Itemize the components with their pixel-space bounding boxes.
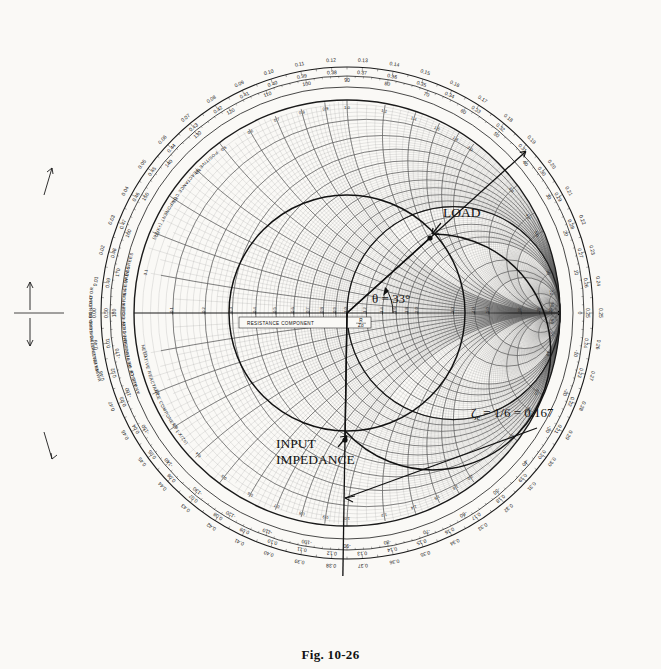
load-annotation: LOAD xyxy=(443,205,481,220)
wavelength-load-label: 0.26 xyxy=(583,277,590,288)
angle-scale-label: -90 xyxy=(343,543,351,549)
wavelength-load-label: 0.50 xyxy=(103,308,109,318)
reactance-arc-label: 50 xyxy=(550,319,555,325)
resistance-tick-label: 0.4 xyxy=(252,306,257,312)
resistance-component-label: RESISTANCE COMPONENTRZo xyxy=(239,317,371,328)
angle-scale-label: 80 xyxy=(384,80,391,87)
input-impedance-annotation-line2: IMPEDANCE xyxy=(276,452,355,467)
figure-caption: Fig. 10-26 xyxy=(0,647,661,663)
reactance-arc-label: 1.0 xyxy=(344,105,350,110)
wavelength-load-label: 0.25 xyxy=(585,308,591,318)
wavelength-generator-label: 0.25 xyxy=(598,308,604,318)
angle-scale-label: -10 xyxy=(573,349,580,357)
wavelength-load-label: 0.13 xyxy=(357,550,367,557)
angle-scale-label: -80 xyxy=(383,539,391,546)
resistance-label-text: RESISTANCE COMPONENT xyxy=(247,321,314,326)
wavelength-generator-label: 0.38 xyxy=(326,563,336,570)
wavelength-load-label: 0.24 xyxy=(583,338,590,349)
wavelength-generator-label: 0.13 xyxy=(358,57,368,64)
angle-scale-label: 180 xyxy=(111,309,117,318)
theta-annotation: θ = 33° xyxy=(372,291,410,306)
input-impedance-annotation-line1: INPUT xyxy=(276,436,317,451)
wavelength-generator-label: 0.24 xyxy=(595,276,602,287)
reactance-arc-label: 50 xyxy=(550,302,555,308)
zeta-equation: = 1/6 = 0.167 xyxy=(480,405,554,420)
zeta-annotation: ζe = 1/6 = 0.167 xyxy=(471,405,554,422)
wavelength-generator-label: 0.12 xyxy=(326,57,336,64)
resistance-label-denominator: Zo xyxy=(358,323,364,328)
wavelength-load-label: 0.38 xyxy=(327,69,337,76)
wavelength-generator-label: 0.37 xyxy=(358,563,368,570)
wavelength-load-label: 0.49 xyxy=(104,277,111,288)
smith-chart-figure: 0.10.20.30.40.50.60.70.80.91.01.21.41.61… xyxy=(0,0,661,669)
wavelength-generator-label: 0.26 xyxy=(595,339,602,350)
angle-scale-label: 0 xyxy=(577,312,583,315)
wavelength-load-label: 0.12 xyxy=(327,550,337,557)
wavelength-load-label: 0.37 xyxy=(357,69,367,76)
wavelength-generator-label: 0.01 xyxy=(92,276,99,287)
angle-scale-label: 90 xyxy=(344,77,350,83)
smith-chart-canvas: 0.10.20.30.40.50.60.70.80.91.01.21.41.61… xyxy=(0,0,661,669)
wavelength-load-label: 0.01 xyxy=(104,338,111,349)
